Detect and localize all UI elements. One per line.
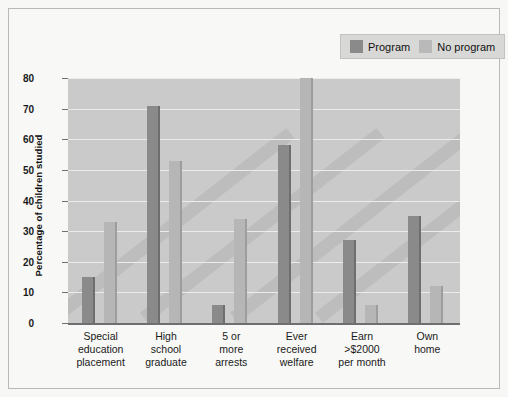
- x-axis-label-line: more: [194, 343, 268, 356]
- x-axis-label-line: Special: [64, 330, 138, 343]
- x-axis-label-line: >$2000: [325, 343, 399, 356]
- x-axis-label-line: Earn: [325, 330, 399, 343]
- x-axis-category-label: Highschoolgraduate: [129, 330, 203, 369]
- x-axis-label-line: placement: [64, 356, 138, 369]
- y-axis-tick-label: 0: [0, 318, 34, 329]
- gridline: [68, 201, 460, 202]
- bar-program: [278, 145, 291, 323]
- y-axis-tick-label: 80: [0, 73, 34, 84]
- y-axis-tick-label: 10: [0, 287, 34, 298]
- y-axis-tick-label: 30: [0, 226, 34, 237]
- bar-program: [82, 277, 95, 323]
- x-axis-label-line: home: [390, 343, 464, 356]
- x-axis-label-line: received: [260, 343, 334, 356]
- x-axis-category-label: 5 ormorearrests: [194, 330, 268, 369]
- bar-program: [408, 216, 421, 323]
- bar-program: [147, 106, 160, 323]
- x-axis-label-line: education: [64, 343, 138, 356]
- y-axis-tick-label: 60: [0, 134, 34, 145]
- gridline: [68, 292, 460, 293]
- bar-no-program: [365, 305, 378, 323]
- gridline: [68, 109, 460, 110]
- bar-no-program: [300, 78, 313, 323]
- x-axis-label-line: per month: [325, 356, 399, 369]
- x-axis-category-label: Specialeducationplacement: [64, 330, 138, 369]
- bar-program: [212, 305, 225, 323]
- x-axis-label-line: graduate: [129, 356, 203, 369]
- legend-item-program: Program: [350, 40, 410, 53]
- x-axis-label-line: school: [129, 343, 203, 356]
- bar-program: [343, 240, 356, 323]
- y-axis-tick-label: 40: [0, 195, 34, 206]
- x-axis-label-line: welfare: [260, 356, 334, 369]
- chart-figure: Percentage of children studied 010203040…: [0, 0, 508, 397]
- gridline: [68, 78, 460, 79]
- bar-no-program: [234, 219, 247, 323]
- x-axis-category-label: Ownhome: [390, 330, 464, 356]
- chart-legend: Program No program: [340, 34, 505, 59]
- legend-item-no-program: No program: [419, 40, 495, 53]
- bar-no-program: [430, 286, 443, 323]
- bar-no-program: [169, 161, 182, 323]
- y-axis-title: Percentage of children studied: [33, 106, 44, 306]
- x-axis-label-line: Own: [390, 330, 464, 343]
- x-axis-line: [68, 323, 460, 325]
- legend-swatch-program-icon: [350, 40, 363, 53]
- x-axis-category-label: Everreceivedwelfare: [260, 330, 334, 369]
- y-axis-tick-label: 50: [0, 164, 34, 175]
- bar-no-program: [104, 222, 117, 323]
- y-axis-tick-label: 70: [0, 103, 34, 114]
- x-axis-label-line: High: [129, 330, 203, 343]
- x-axis-label-line: 5 or: [194, 330, 268, 343]
- legend-swatch-no-program-icon: [419, 40, 432, 53]
- x-axis-label-line: arrests: [194, 356, 268, 369]
- x-axis-category-label: Earn>$2000per month: [325, 330, 399, 369]
- plot-area: [68, 78, 460, 323]
- gridline: [68, 139, 460, 140]
- gridline: [68, 231, 460, 232]
- gridline: [68, 262, 460, 263]
- legend-label-no-program: No program: [437, 41, 495, 53]
- x-axis-label-line: Ever: [260, 330, 334, 343]
- gridline: [68, 170, 460, 171]
- y-axis-tick-label: 20: [0, 256, 34, 267]
- legend-label-program: Program: [368, 41, 410, 53]
